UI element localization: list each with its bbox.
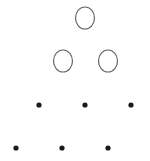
hollow-circle bbox=[99, 50, 118, 72]
filled-dot bbox=[36, 102, 41, 107]
circles-group bbox=[54, 7, 118, 72]
filled-dot bbox=[13, 145, 18, 150]
hollow-circle bbox=[54, 50, 73, 72]
filled-dot bbox=[128, 102, 133, 107]
triangle-pattern-diagram bbox=[0, 0, 150, 161]
filled-dot bbox=[105, 145, 110, 150]
filled-dot bbox=[59, 145, 64, 150]
hollow-circle bbox=[76, 7, 95, 29]
filled-dot bbox=[82, 102, 87, 107]
dots-group bbox=[13, 102, 133, 150]
